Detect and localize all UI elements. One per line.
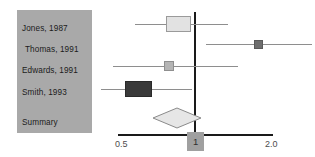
plot-canvas: 0.5 1 2.0 xyxy=(0,0,315,157)
x-axis-tick-label-0-5: 0.5 xyxy=(115,139,128,150)
effect-marker-smith-1993 xyxy=(125,81,152,97)
x-axis-tick-label-1: 1 xyxy=(193,136,198,147)
effect-marker-jones-1987 xyxy=(166,16,191,32)
effect-marker-thomas-1991 xyxy=(254,40,263,49)
effect-marker-edwards-1991 xyxy=(164,61,174,71)
forest-plot: Jones, 1987 Thomas, 1991 Edwards, 1991 S… xyxy=(0,0,315,157)
summary-diamond xyxy=(152,106,202,130)
x-axis-tick-label-2-0: 2.0 xyxy=(265,139,278,150)
ci-line-edwards-1991 xyxy=(113,66,238,67)
